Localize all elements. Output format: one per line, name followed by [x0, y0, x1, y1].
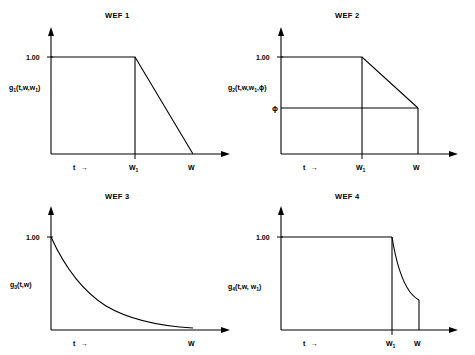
xtick-label-w-wef-2: W: [413, 164, 420, 171]
xtick-w1-sub-wef-4: 1: [393, 343, 396, 349]
ylabel-args-wef-1: (t,w,w: [16, 84, 36, 92]
xtick-label-w1-wef-4: W1: [386, 340, 396, 349]
x-axis-arrowhead-wef-3: [221, 327, 230, 333]
ytick-label-wef-1: 1.00: [26, 54, 40, 61]
xtick-w1-sub-wef-1: 1: [136, 167, 139, 173]
x-axis-arrowhead-wef-1: [221, 151, 230, 157]
y-axis-arrowhead-wef-3: [48, 206, 54, 215]
svg-text:g1(t,w,w1): g1(t,w,w1): [9, 84, 40, 93]
xlabel-arrow-wef-2: →: [311, 164, 318, 171]
x-axis-arrowhead-wef-4: [449, 327, 458, 333]
ytick-label-wef-3: 1.00: [26, 234, 40, 241]
ylabel-close-wef-2: ,ϕ): [257, 84, 267, 92]
panel-wef-4: WEF 4 1.00 g4(t,w, w1) t → W1 W: [228, 192, 458, 349]
ylabel-args-wef-3: (t,w: [17, 281, 30, 289]
xtick-label-w-wef-4: W: [414, 340, 421, 347]
y-axis-label-wef-2: g2(t,w,w1,ϕ): [228, 84, 267, 93]
curve-wef-4: [392, 237, 419, 300]
ylabel-args-wef-2: (t,w,w: [235, 84, 255, 92]
xtick-label-w1-wef-1: W1: [129, 164, 139, 173]
xtick-label-w-wef-1: W: [188, 164, 195, 171]
svg-text:g3(t,w): g3(t,w): [10, 281, 31, 290]
ylabel-close-wef-3: ): [29, 281, 31, 289]
xtick-w1-sub-wef-2: 1: [363, 167, 366, 173]
wef-figure: WEF 1 1.00 g1(t,w,w1) t → W1 W: [0, 0, 475, 355]
panel-title-wef-1: WEF 1: [105, 11, 129, 20]
y-axis-label-wef-1: g1(t,w,w1): [9, 84, 40, 93]
curve-wef-1: [51, 57, 193, 154]
svg-text:W1: W1: [356, 164, 366, 173]
ylabel-args-wef-4: (t,w, w: [235, 283, 257, 291]
panel-wef-1: WEF 1 1.00 g1(t,w,w1) t → W1 W: [9, 11, 230, 173]
xlabel-arrow-wef-3: →: [81, 340, 88, 347]
curve-wef-2: [281, 57, 418, 108]
ylabel-close-wef-1: ): [38, 84, 40, 92]
panel-title-wef-2: WEF 2: [335, 11, 359, 20]
figure-canvas: WEF 1 1.00 g1(t,w,w1) t → W1 W: [0, 0, 475, 355]
svg-text:W1: W1: [129, 164, 139, 173]
ylevel-phi-label-wef-2: ϕ: [272, 104, 278, 113]
xlabel-t-wef-3: t: [73, 340, 76, 347]
xlabel-t-wef-4: t: [303, 340, 306, 347]
svg-text:g4(t,w, w1): g4(t,w, w1): [228, 283, 261, 292]
ytick-label-wef-4: 1.00: [256, 234, 270, 241]
xtick-label-w-wef-3: W: [188, 340, 195, 347]
svg-text:g2(t,w,w1,ϕ): g2(t,w,w1,ϕ): [228, 84, 267, 93]
panel-wef-2: WEF 2 1.00 ϕ g2(t,w,w1,ϕ) t → W1 W: [228, 11, 458, 173]
y-axis-arrowhead-wef-2: [278, 27, 284, 36]
xlabel-arrow-wef-4: →: [311, 340, 318, 347]
curve-wef-3: [51, 237, 193, 328]
xlabel-arrow-wef-1: →: [81, 164, 88, 171]
y-axis-arrowhead-wef-1: [48, 27, 54, 36]
ylabel-close-wef-4: ): [259, 283, 261, 291]
panel-title-wef-3: WEF 3: [105, 192, 129, 201]
xlabel-t-wef-1: t: [73, 164, 76, 171]
y-axis-arrowhead-wef-4: [278, 206, 284, 215]
panel-wef-3: WEF 3 1.00 g3(t,w) t → W: [10, 192, 230, 347]
y-axis-label-wef-4: g4(t,w, w1): [228, 283, 261, 292]
panel-title-wef-4: WEF 4: [335, 192, 360, 201]
xlabel-t-wef-2: t: [303, 164, 306, 171]
y-axis-label-wef-3: g3(t,w): [10, 281, 31, 290]
ytick-label-wef-2: 1.00: [256, 54, 270, 61]
x-axis-arrowhead-wef-2: [449, 151, 458, 157]
xtick-label-w1-wef-2: W1: [356, 164, 366, 173]
svg-text:W1: W1: [386, 340, 396, 349]
